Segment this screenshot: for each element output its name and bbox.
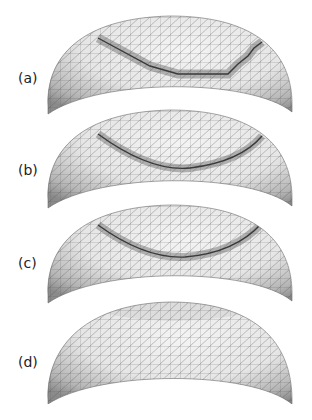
panel-label-b: (b) bbox=[18, 162, 38, 178]
panel-d: (d) bbox=[0, 292, 312, 404]
dome-mesh-d bbox=[0, 292, 312, 404]
panel-label-a: (a) bbox=[18, 70, 38, 86]
triangle-mesh bbox=[0, 292, 312, 404]
panel-label-c: (c) bbox=[18, 255, 37, 271]
panel-label-d: (d) bbox=[18, 354, 38, 370]
